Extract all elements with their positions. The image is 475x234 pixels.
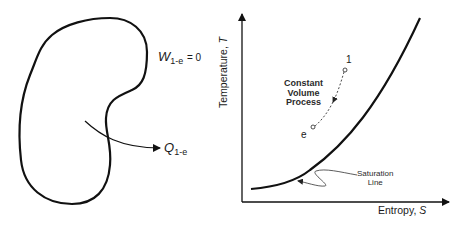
heat-symbol: Q [164, 140, 174, 155]
saturation-label: Saturation Line [357, 169, 393, 187]
heat-label: Q1-e [164, 141, 187, 157]
saturation-label-line: Line [357, 178, 393, 187]
process-path [333, 72, 344, 102]
y-axis-text: Temperature, [217, 43, 229, 108]
x-axis-variable: S [419, 204, 426, 216]
process-label-line: Process [284, 98, 323, 108]
system-boundary [20, 18, 147, 204]
y-axis-label: Temperature, T [217, 37, 229, 108]
diagram-canvas [0, 0, 475, 234]
state-point-1 [343, 68, 347, 72]
heat-subscript: 1-e [174, 147, 187, 157]
saturation-curve [251, 18, 420, 189]
point-1-label: 1 [346, 55, 352, 65]
work-equation: = 0 [187, 52, 201, 63]
work-label: W1-e = 0 [158, 50, 201, 66]
x-axis-text: Entropy, [378, 204, 419, 216]
work-subscript: 1-e [170, 56, 183, 66]
x-axis-label: Entropy, S [378, 205, 426, 216]
state-point-e [311, 125, 315, 129]
point-e-label: e [301, 130, 307, 140]
y-axis-variable: T [217, 37, 229, 43]
work-symbol: W [158, 49, 170, 64]
saturation-label-line: Saturation [357, 169, 393, 178]
heat-transfer-arrow [85, 121, 160, 148]
process-label: Constant Volume Process [284, 79, 323, 108]
